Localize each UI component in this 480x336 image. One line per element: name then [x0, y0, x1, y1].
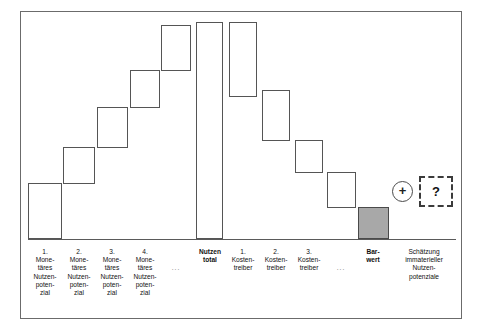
waterfall-plot: + ? 1. Mone- täres Nutzen- poten- zial 2…: [0, 0, 480, 336]
bar-kostentreiber-3[interactable]: [295, 140, 323, 173]
figure-canvas: + ? 1. Mone- täres Nutzen- poten- zial 2…: [0, 0, 480, 336]
axis-label-monetaeres-nutzenpotenzial-4: 4. Mone- täres Nutzen- poten- zial: [122, 248, 168, 297]
bar-kostentreiber-1[interactable]: [229, 22, 257, 97]
bar-monetaeres-nutzenpotenzial-4[interactable]: [130, 70, 160, 108]
bar-monetaeres-nutzenpotenzial-3[interactable]: [97, 107, 128, 148]
plus-icon: +: [392, 181, 413, 202]
axis-label-schaetzung-immaterieller-nutzenpotenziale: Schätzung immaterieller Nutzen- potenzia…: [390, 248, 458, 281]
bar-monetaeres-nutzenpotenzial-1[interactable]: [28, 183, 62, 239]
axis-label-weitere-kostentreiber: ...: [318, 264, 364, 272]
bar-nutzen-total[interactable]: [196, 22, 223, 239]
bar-kostentreiber-2[interactable]: [262, 90, 290, 141]
bar-monetaeres-nutzenpotenzial-2[interactable]: [63, 147, 95, 184]
x-axis-line: [28, 239, 456, 240]
question-placeholder-box[interactable]: ?: [419, 176, 453, 207]
axis-label-weitere-nutzenpotenziale: ...: [153, 264, 199, 272]
bar-weitere-nutzenpotenziale[interactable]: [161, 25, 191, 71]
bar-barwert[interactable]: [358, 207, 389, 239]
bar-weitere-kostentreiber[interactable]: [327, 172, 356, 208]
